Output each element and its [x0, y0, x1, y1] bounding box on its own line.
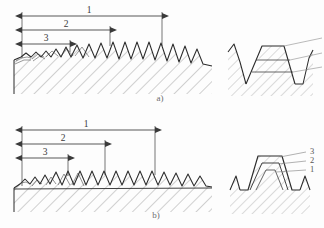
engineering-figure: 1 2 3 a) — [0, 0, 324, 228]
panel-b-dim-label-1: 1 — [84, 119, 89, 129]
panel-b-caption: b) — [152, 210, 160, 220]
panel-a-caption: a) — [157, 93, 164, 103]
figure-canvas: 1 2 3 a) — [0, 0, 324, 228]
panel-b-dim-label-3: 3 — [43, 147, 48, 157]
panel-a-dim-label-2: 2 — [64, 19, 69, 29]
panel-b-detail-label-1: 1 — [310, 164, 314, 174]
panel-a-dim-label-3: 3 — [44, 33, 49, 43]
panel-b-dim-label-2: 2 — [61, 133, 66, 143]
panel-a-dim-label-1: 1 — [87, 5, 92, 15]
